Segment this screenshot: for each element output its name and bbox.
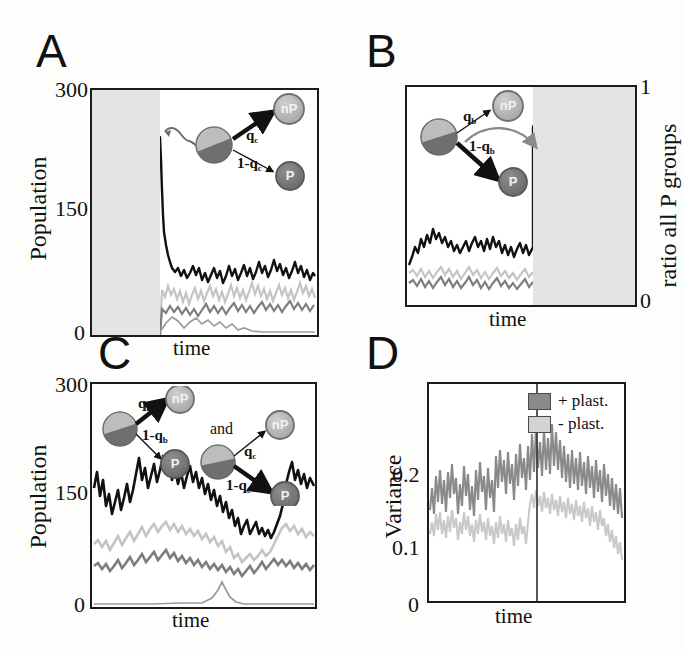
panel-c-right-label-q: qc [244, 443, 256, 461]
panel-b-x-axis-label: time [489, 307, 526, 332]
svg-text:P: P [171, 456, 180, 471]
panel-b-ytick-0: 0 [640, 288, 651, 314]
panel-a-ytick-300: 300 [55, 77, 88, 103]
panel-a-shaded-region [92, 90, 160, 335]
panel-a-x-axis-label: time [173, 336, 210, 361]
panel-a-ytick-150: 150 [55, 196, 88, 222]
p-node: P [161, 450, 189, 478]
panel-d-x-axis-label: time [495, 604, 532, 629]
svg-text:P: P [286, 168, 295, 183]
np-node: nP [266, 411, 294, 439]
split-circle-icon [103, 412, 141, 450]
np-node: nP [166, 386, 194, 413]
legend-item-plus-plast: + plast. [528, 391, 608, 411]
p-node: P [271, 482, 299, 506]
panel-b-diagram: qb 1-qb nP P [413, 89, 563, 197]
panel-c-ytick-150: 150 [55, 480, 88, 506]
panel-a-diagram: qc 1-qc nP P [192, 92, 316, 194]
panel-a-label-1mq: 1-qc [237, 155, 262, 173]
panel-c-ytick-300: 300 [55, 372, 88, 398]
panel-c-x-axis-label: time [172, 608, 209, 633]
panel-c-diagram: qb 1-qb nP P and [98, 386, 313, 506]
panel-b-ytick-1: 1 [640, 74, 651, 100]
legend-swatch-plus-plast [528, 393, 551, 410]
panel-b-label-q: qb [463, 108, 476, 126]
legend-label-minus-plast: - plast. [558, 414, 604, 434]
panel-d-legend: + plast. - plast. [528, 391, 608, 437]
svg-text:nP: nP [281, 101, 298, 116]
panel-c-left-label-q: qb [138, 395, 151, 413]
panel-c-y-axis-label: Population [25, 437, 52, 557]
panel-c-plot: qb 1-qb nP P and [90, 382, 317, 609]
panel-c-left-diagram: qb 1-qb nP P [103, 386, 194, 478]
panel-b-plot: qb 1-qb nP P [405, 85, 637, 307]
svg-text:nP: nP [172, 391, 189, 406]
p-node: P [276, 162, 304, 190]
panel-a-label-q: qc [246, 127, 258, 145]
split-circle-icon [196, 127, 237, 168]
panel-d-letter: D [366, 330, 399, 376]
p-node: P [499, 168, 527, 196]
panel-b-letter: B [366, 28, 397, 74]
svg-text:nP: nP [272, 417, 289, 432]
panel-c-connector-and: and [210, 420, 233, 437]
panel-a-plot: qc 1-qc nP P [90, 88, 319, 337]
panel-d-y-axis-label: Variance [380, 437, 407, 557]
panel-d-ytick-0: 0 [408, 592, 419, 618]
panel-c-ytick-0: 0 [74, 592, 85, 618]
panel-b-y-axis-label: ratio all P groups [655, 111, 682, 301]
panel-a-letter: A [36, 28, 67, 74]
svg-text:nP: nP [500, 98, 517, 113]
panel-a-y-axis-label: Population [25, 149, 52, 269]
legend-item-minus-plast: - plast. [528, 414, 608, 434]
np-node: nP [493, 91, 523, 121]
legend-swatch-minus-plast [528, 416, 551, 433]
svg-text:P: P [509, 174, 518, 189]
legend-label-plus-plast: + plast. [558, 391, 608, 411]
panel-a-ytick-0: 0 [74, 320, 85, 346]
svg-text:P: P [281, 488, 290, 503]
panel-c-right-label-1mq: 1-qc [226, 477, 251, 495]
split-circle-icon [421, 119, 462, 160]
panel-c-letter: C [98, 330, 131, 376]
np-node: nP [274, 94, 304, 124]
panel-b-label-1mq: 1-qb [469, 138, 495, 156]
panel-c-left-label-1mq: 1-qb [142, 427, 168, 445]
